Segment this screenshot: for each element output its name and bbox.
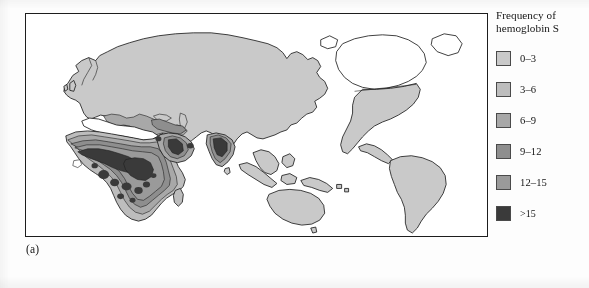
legend-title-line-1: Frequency of	[496, 9, 556, 21]
legend-swatch-12-15	[496, 175, 511, 190]
legend-swatch-over-15	[496, 206, 511, 221]
world-choropleth-map: .c0 { fill:#c9c9c9; } .c1 { fill:#bdbdbd…	[26, 14, 487, 236]
legend-label-over-15: >15	[520, 208, 536, 219]
legend-item-3-6: 3–6	[496, 74, 584, 105]
legend-title: Frequency of hemoglobin S	[496, 9, 582, 36]
legend-label-6-9: 6–9	[520, 115, 536, 126]
legend-swatch-6-9	[496, 113, 511, 128]
legend-item-9-12: 9–12	[496, 136, 584, 167]
legend-label-12-15: 12–15	[520, 177, 547, 188]
legend-label-0-3: 0–3	[520, 53, 536, 64]
legend-title-line-2: hemoglobin S	[496, 22, 559, 34]
figure-panel-a: .c0 { fill:#c9c9c9; } .c1 { fill:#bdbdbd…	[0, 0, 589, 288]
legend-swatch-9-12	[496, 144, 511, 159]
legend-swatch-0-3	[496, 51, 511, 66]
legend-item-0-3: 0–3	[496, 43, 584, 74]
panel-label: (a)	[26, 243, 39, 255]
map-legend: Frequency of hemoglobin S 0–3 3–6 6–9 9–…	[496, 9, 584, 229]
legend-item-6-9: 6–9	[496, 105, 584, 136]
legend-label-3-6: 3–6	[520, 84, 536, 95]
legend-label-9-12: 9–12	[520, 146, 542, 157]
map-frame: .c0 { fill:#c9c9c9; } .c1 { fill:#bdbdbd…	[25, 13, 488, 237]
legend-item-over-15: >15	[496, 198, 584, 229]
legend-swatch-3-6	[496, 82, 511, 97]
legend-item-12-15: 12–15	[496, 167, 584, 198]
